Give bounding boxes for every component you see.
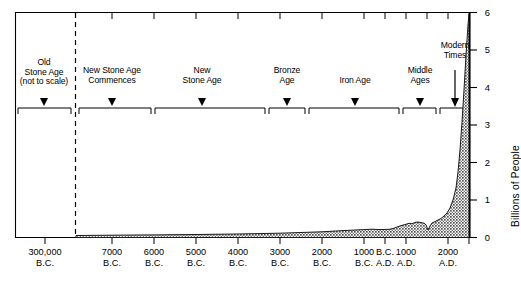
era-label-nsac-line2: Commences xyxy=(66,76,158,86)
marker-old-stone-age xyxy=(40,98,48,106)
y-tick-label-0: 0 xyxy=(478,232,490,243)
marker-new-stone-age xyxy=(198,98,206,106)
era-label-nsa-line2: Stone Age xyxy=(168,76,236,86)
marker-iron-age xyxy=(351,98,359,106)
population-area-curve xyxy=(76,14,469,238)
y-axis-title: Billions of People xyxy=(510,145,521,227)
x-tick-label-2000-ad-line1: 2000 xyxy=(427,247,469,258)
x-tick-label-7000-bc-line1: 7000 xyxy=(91,247,133,258)
era-label-iron-age: Iron Age xyxy=(325,76,385,86)
x-tick-label-2000-bc-line1: 2000 xyxy=(301,247,343,258)
era-label-modern-times: Modern Times xyxy=(426,41,484,60)
era-label-new-stone-age-commences: New Stone Age Commences xyxy=(66,66,158,85)
marker-middle-ages xyxy=(416,98,424,106)
x-tick-label-5000-bc: 5000 B.C. xyxy=(175,247,217,269)
x-tick-label-7000-bc-line2: B.C. xyxy=(91,258,133,269)
x-tick-label-3000-bc-line1: 3000 xyxy=(259,247,301,258)
y-tick-label-6: 6 xyxy=(478,7,490,18)
top-axis-ticks xyxy=(112,13,448,20)
y-tick-label-2: 2 xyxy=(478,157,490,168)
x-tick-label-6000-bc-line2: B.C. xyxy=(133,258,175,269)
x-tick-label-2000-ad: 2000 A.D. xyxy=(427,247,469,269)
x-tick-label-1000-ad-line1: 1000 xyxy=(385,247,427,258)
era-bracket-rails xyxy=(18,108,469,114)
marker-bronze-age xyxy=(283,98,291,106)
era-label-middle-line2: Ages xyxy=(392,76,448,86)
x-tick-label-6000-bc-line1: 6000 xyxy=(133,247,175,258)
era-label-new-stone-age: New Stone Age xyxy=(168,66,236,85)
marker-new-stone-age-commences xyxy=(108,98,116,106)
y-tick-label-4: 4 xyxy=(478,82,490,93)
x-tick-label-2000-ad-line2: A.D. xyxy=(427,258,469,269)
y-tick-label-3: 3 xyxy=(478,119,490,130)
x-tick-label-300000-bc-line2: B.C. xyxy=(9,258,81,269)
x-tick-label-2000-bc-line2: B.C. xyxy=(301,258,343,269)
x-tick-label-7000-bc: 7000 B.C. xyxy=(91,247,133,269)
era-label-modern-line2: Times xyxy=(426,51,484,61)
x-tick-label-4000-bc-line2: B.C. xyxy=(217,258,259,269)
x-tick-label-300000-bc: 300,000 B.C. xyxy=(9,247,81,269)
bottom-axis-ticks xyxy=(45,238,469,245)
x-tick-label-4000-bc-line1: 4000 xyxy=(217,247,259,258)
era-label-bronze-age: Bronze Age xyxy=(257,66,317,85)
y-tick-label-1: 1 xyxy=(478,194,490,205)
x-tick-label-3000-bc: 3000 B.C. xyxy=(259,247,301,269)
x-tick-label-2000-bc: 2000 B.C. xyxy=(301,247,343,269)
era-label-iron-line1: Iron Age xyxy=(325,76,385,86)
x-tick-label-4000-bc: 4000 B.C. xyxy=(217,247,259,269)
era-label-bronze-line2: Age xyxy=(257,76,317,86)
plot-frame xyxy=(16,13,470,238)
y-tick-label-5: 5 xyxy=(478,44,490,55)
x-tick-label-300000-bc-line1: 300,000 xyxy=(9,247,81,258)
x-tick-label-5000-bc-line1: 5000 xyxy=(175,247,217,258)
x-tick-label-5000-bc-line2: B.C. xyxy=(175,258,217,269)
era-label-middle-ages: Middle Ages xyxy=(392,66,448,85)
x-tick-label-1000-ad: 1000 A.D. xyxy=(385,247,427,269)
x-tick-label-3000-bc-line2: B.C. xyxy=(259,258,301,269)
x-tick-label-1000-ad-line2: A.D. xyxy=(385,258,427,269)
x-tick-label-6000-bc: 6000 B.C. xyxy=(133,247,175,269)
marker-modern-times xyxy=(451,70,459,107)
